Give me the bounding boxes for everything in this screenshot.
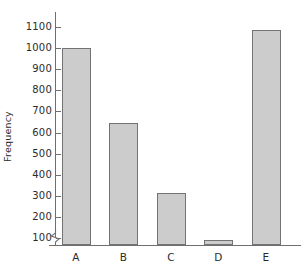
bar-b	[109, 123, 138, 245]
y-axis-tick-label-text: 500	[18, 149, 52, 159]
bar-c	[157, 193, 186, 245]
y-axis-tick	[56, 175, 61, 176]
y-axis-tick-label-text: 1000	[18, 43, 52, 53]
y-axis-tick-label-text: 100	[18, 233, 52, 243]
y-axis-tick	[56, 111, 61, 112]
y-axis-tick-label: 600	[16, 128, 52, 138]
y-axis-tick-label: 1000	[16, 43, 52, 53]
y-axis-tick	[56, 196, 61, 197]
x-axis-label-e: E	[246, 251, 286, 263]
y-axis-tick-label-text: 700	[18, 106, 52, 116]
x-axis-label-a: A	[56, 251, 96, 263]
y-axis-tick-label: 900	[16, 64, 52, 74]
y-axis-tick-label-text: 1100	[18, 22, 52, 32]
y-axis-tick-label-text: 800	[18, 85, 52, 95]
y-axis-tick-label-text: 300	[18, 191, 52, 201]
y-axis-tick	[56, 154, 61, 155]
y-axis-tick-label-text: 200	[18, 212, 52, 222]
x-axis-label-c: C	[151, 251, 191, 263]
y-axis-tick-label: 700	[16, 106, 52, 116]
y-axis-tick-label-text: 400	[18, 170, 52, 180]
bar-chart-figure: Frequency 100200300400500600700800900100…	[0, 0, 305, 273]
y-axis-line	[55, 12, 56, 238]
y-axis-tick	[56, 69, 61, 70]
y-axis-tick-label: 200	[16, 212, 52, 222]
y-axis-tick	[56, 90, 61, 91]
y-axis-tick	[56, 217, 61, 218]
y-axis-tick	[56, 238, 61, 239]
y-axis-tick	[56, 27, 61, 28]
y-axis-tick-label-text: 900	[18, 64, 52, 74]
bar-a	[62, 48, 91, 245]
bar-e	[252, 30, 281, 245]
y-axis-tick-label: 300	[16, 191, 52, 201]
y-axis-title-text: Frequency	[2, 111, 13, 162]
y-axis-tick-label: 800	[16, 85, 52, 95]
x-axis-label-b: B	[104, 251, 144, 263]
y-axis-tick-label: 100	[16, 233, 52, 243]
y-axis-tick-label: 1100	[16, 22, 52, 32]
y-axis-tick	[56, 48, 61, 49]
y-axis-tick	[56, 133, 61, 134]
y-axis-tick-label-text: 600	[18, 128, 52, 138]
y-axis-tick-label: 400	[16, 170, 52, 180]
bar-d	[204, 240, 233, 245]
x-axis-label-d: D	[199, 251, 239, 263]
y-axis-title: Frequency	[0, 0, 16, 273]
y-axis-tick-label: 500	[16, 149, 52, 159]
x-axis-line	[49, 245, 301, 246]
